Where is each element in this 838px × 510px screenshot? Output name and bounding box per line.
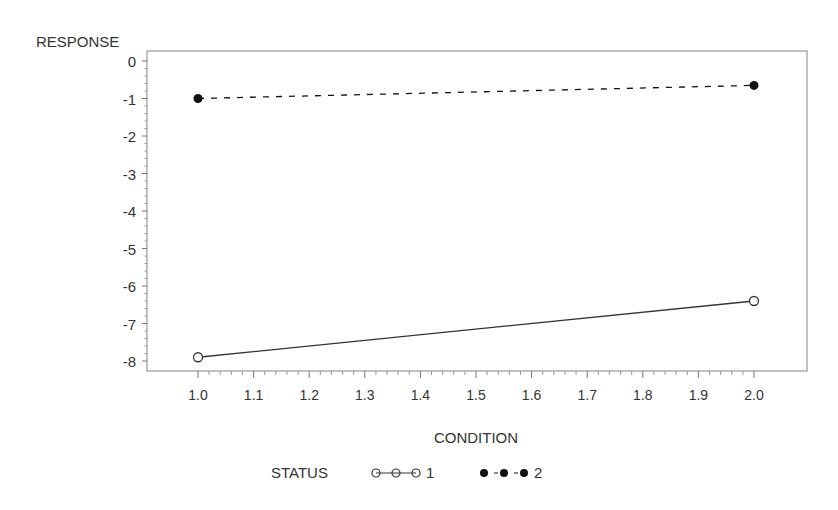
y-tick-label: -3 (123, 166, 136, 183)
legend: STATUS 12 (271, 464, 542, 481)
x-tick-label: 1.0 (188, 387, 208, 403)
x-tick-label: 1.9 (689, 387, 709, 403)
x-tick-label: 1.8 (633, 387, 653, 403)
y-tick-label: -6 (123, 278, 136, 295)
y-tick-label: -4 (123, 203, 136, 220)
legend-label: 2 (534, 464, 542, 481)
y-tick-label: -7 (123, 316, 136, 333)
legend-item-2: 2 (480, 464, 542, 481)
data-point (194, 94, 203, 103)
y-tick-label: 0 (128, 53, 136, 70)
x-tick-label: 1.7 (577, 387, 597, 403)
series-2 (194, 81, 759, 103)
x-tick-label: 1.1 (244, 387, 264, 403)
data-point (750, 297, 759, 306)
y-tick-label: -1 (123, 91, 136, 108)
plot-frame (147, 51, 807, 371)
data-point (194, 353, 203, 362)
x-tick-label: 1.2 (299, 387, 319, 403)
x-axis-label: CONDITION (434, 429, 518, 446)
legend-title: STATUS (271, 464, 328, 481)
legend-item-1: 1 (372, 464, 434, 481)
series-1 (194, 297, 759, 362)
y-tick-label: -5 (123, 241, 136, 258)
y-axis-label: RESPONSE (36, 33, 119, 50)
legend-label: 1 (426, 464, 434, 481)
x-tick-label: 1.4 (411, 387, 431, 403)
x-tick-label: 1.6 (522, 387, 542, 403)
series-group (194, 81, 759, 362)
x-tick-label: 1.3 (355, 387, 375, 403)
x-tick-label: 2.0 (744, 387, 764, 403)
data-point (750, 81, 759, 90)
x-tick-label: 1.5 (466, 387, 486, 403)
line-chart: RESPONSE 0-1-2-3-4-5-6-7-8 1.01.11.21.31… (0, 0, 838, 510)
y-tick-label: -2 (123, 128, 136, 145)
y-axis: 0-1-2-3-4-5-6-7-8 (123, 53, 147, 370)
x-axis: 1.01.11.21.31.41.51.61.71.81.92.0 (188, 371, 764, 403)
y-tick-label: -8 (123, 353, 136, 370)
